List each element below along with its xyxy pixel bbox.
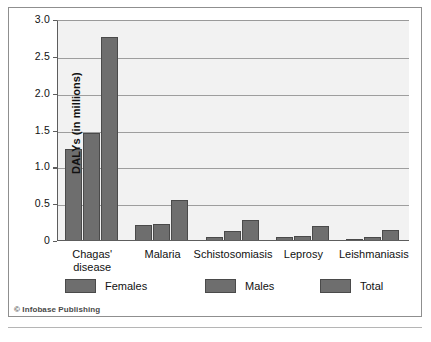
bar	[171, 200, 188, 241]
y-axis-tick-label: 3.0	[10, 13, 50, 25]
y-axis-tick-mark	[53, 20, 57, 21]
legend-swatch	[320, 279, 351, 293]
bar	[153, 224, 170, 241]
bar	[101, 37, 118, 241]
bar	[83, 133, 100, 241]
legend-item: Total	[320, 279, 383, 293]
y-axis-tick-label: 2.0	[10, 87, 50, 99]
y-axis-tick-mark	[53, 94, 57, 95]
legend-swatch	[65, 279, 96, 293]
copyright-credit: © Infobase Publishing	[14, 305, 100, 314]
bar	[135, 225, 152, 241]
y-axis-tick-label: 0.5	[10, 197, 50, 209]
y-axis-title: DALYs (in millions)	[70, 28, 82, 218]
x-axis-line	[57, 240, 409, 241]
legend-label: Females	[105, 280, 147, 292]
legend-swatch	[205, 279, 236, 293]
x-axis-category-label: Leishmaniasis	[331, 248, 417, 261]
y-axis-tick-label: 1.5	[10, 124, 50, 136]
legend-label: Males	[245, 280, 274, 292]
figure-container: DALYs (in millions) 00.51.01.52.02.53.0 …	[0, 0, 431, 342]
bar	[312, 226, 329, 241]
y-axis-tick-mark	[53, 131, 57, 132]
legend-item: Males	[205, 279, 274, 293]
y-axis-tick-mark	[53, 167, 57, 168]
legend-label: Total	[360, 280, 383, 292]
y-axis-tick-label: 0	[10, 234, 50, 246]
chart-legend: FemalesMalesTotal	[57, 279, 397, 299]
y-axis-tick-mark	[53, 57, 57, 58]
y-axis-tick-label: 2.5	[10, 50, 50, 62]
plot-area: DALYs (in millions)	[57, 20, 409, 241]
bottom-divider	[8, 327, 422, 328]
legend-item: Females	[65, 279, 147, 293]
bar	[242, 220, 259, 241]
y-axis-tick-label: 1.0	[10, 160, 50, 172]
y-axis-tick-mark	[53, 204, 57, 205]
y-axis-tick-mark	[53, 241, 57, 242]
